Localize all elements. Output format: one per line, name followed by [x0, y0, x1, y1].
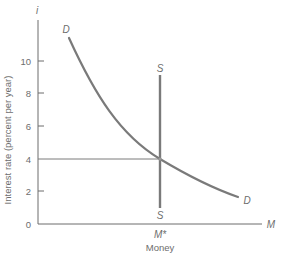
demand-label-top: D: [62, 24, 69, 35]
y-tick-label-2: 2: [26, 186, 31, 197]
money-market-chart: i M 0 2 4 6 8 10 Interest rate (percent …: [0, 0, 283, 256]
y-tick-label-8: 8: [26, 88, 31, 99]
y-axis-title: Interest rate (percent per year): [2, 76, 13, 205]
equilibrium-point: [158, 157, 161, 160]
x-axis-symbol: M: [267, 219, 276, 230]
y-axis-symbol: i: [36, 5, 39, 16]
y-tick-labels: 0 2 4 6 8 10: [20, 56, 31, 230]
m-star-label: M*: [154, 229, 167, 240]
supply-label-top: S: [157, 63, 164, 74]
demand-curve: [69, 38, 238, 197]
demand-label-bottom: D: [243, 195, 250, 206]
y-ticks: [38, 61, 44, 191]
supply-label-bottom: S: [157, 210, 164, 221]
y-tick-label-4: 4: [26, 154, 31, 165]
y-tick-label-6: 6: [26, 121, 31, 132]
x-axis-title: Money: [146, 242, 175, 253]
y-tick-label-10: 10: [20, 56, 31, 67]
y-tick-label-0: 0: [26, 219, 31, 230]
